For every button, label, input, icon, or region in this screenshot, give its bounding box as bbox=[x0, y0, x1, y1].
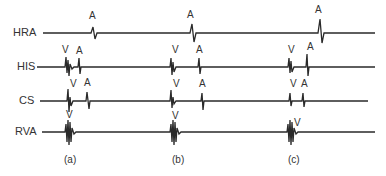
panel-label-b: (b) bbox=[172, 154, 184, 165]
mark-v-his-3: V bbox=[288, 44, 295, 55]
mark-a-cs-2: A bbox=[199, 78, 206, 89]
mark-a-his-2: A bbox=[196, 44, 203, 55]
trace-cs bbox=[40, 89, 368, 112]
mark-a-hra-2: A bbox=[187, 9, 194, 20]
mark-a-cs-1: A bbox=[84, 77, 91, 88]
trace-hra bbox=[43, 19, 375, 43]
mark-v-rva-2: V bbox=[172, 110, 179, 121]
mark-v-his-2: V bbox=[172, 44, 179, 55]
mark-v-rva-3: V bbox=[294, 117, 301, 128]
mark-a-his-3: A bbox=[307, 41, 314, 52]
mark-v-cs-1: V bbox=[70, 78, 77, 89]
panel-label-a: (a) bbox=[64, 154, 76, 165]
mark-v-rva-1: V bbox=[66, 109, 73, 120]
mark-a-cs-3: A bbox=[301, 78, 308, 89]
traces bbox=[0, 0, 386, 176]
trace-his bbox=[37, 54, 375, 76]
mark-a-his-1: A bbox=[76, 45, 83, 56]
trace-rva bbox=[42, 120, 375, 145]
mark-v-his-1: V bbox=[62, 44, 69, 55]
panel-label-c: (c) bbox=[288, 154, 300, 165]
mark-a-hra-1: A bbox=[89, 10, 96, 21]
mark-a-hra-3: A bbox=[315, 4, 322, 15]
mark-v-cs-3: V bbox=[290, 78, 297, 89]
mark-v-cs-2: V bbox=[173, 78, 180, 89]
